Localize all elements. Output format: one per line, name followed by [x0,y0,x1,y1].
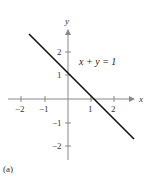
x-tick-label: 1 [88,104,93,114]
graph-figure: −2 −1 1 2 2 1 −1 −2 x y x + y = 1 (a) [0,0,158,179]
equation-line [29,34,134,139]
y-axis-label: y [64,16,69,26]
equation-label: x + y = 1 [78,56,116,67]
y-tick-label: 1 [57,70,62,80]
y-tick-label: −2 [52,141,62,151]
y-tick-label: 2 [57,47,62,57]
x-tick-label: −2 [15,104,25,114]
x-axis-label: x [138,94,143,104]
y-tick-label: −1 [52,118,62,128]
x-tick-label: −1 [39,104,49,114]
figure-label: (a) [3,164,13,174]
x-tick-label: 2 [111,104,116,114]
